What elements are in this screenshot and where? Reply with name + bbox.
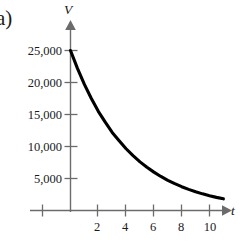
x-tick-label-10: 10 — [204, 220, 217, 235]
y-axis-label: V — [64, 2, 72, 18]
x-axis-label: t — [231, 203, 235, 219]
decay-curve — [71, 51, 224, 199]
x-tick-label-4: 4 — [122, 220, 128, 235]
figure-panel: a) 25,000 20,000 15,000 10,000 5,000 2 4… — [0, 0, 240, 244]
y-tick-label-10000: 10,000 — [28, 140, 62, 155]
y-tick-label-20000: 20,000 — [28, 76, 62, 91]
y-axis-arrow-icon — [65, 20, 76, 30]
y-tick-label-15000: 15,000 — [28, 108, 62, 123]
y-tick-label-5000: 5,000 — [34, 172, 62, 187]
x-tick-label-2: 2 — [94, 220, 100, 235]
x-tick-label-6: 6 — [150, 220, 156, 235]
y-tick-label-25000: 25,000 — [28, 44, 62, 59]
x-tick-label-8: 8 — [178, 220, 184, 235]
